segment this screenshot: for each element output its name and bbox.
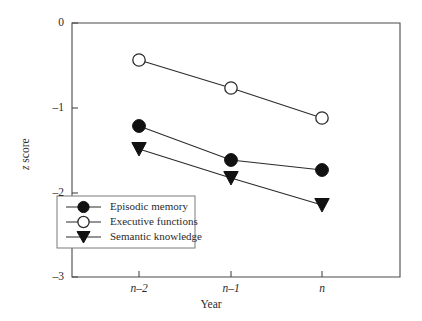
x-tick-marks — [139, 271, 322, 277]
data-point-filled-triangle — [315, 199, 329, 213]
data-point-open-circle — [225, 82, 237, 94]
y-tick-label-0: 0 — [40, 16, 64, 28]
y-axis-title: z score — [19, 138, 31, 170]
filled-circle-icon — [78, 201, 89, 212]
data-point-filled-circle — [225, 154, 238, 167]
data-point-open-circle — [316, 112, 328, 124]
data-point-filled-triangle — [224, 172, 238, 186]
data-point-filled-triangle — [132, 143, 146, 157]
data-point-open-circle — [133, 54, 145, 66]
legend-label-semantic-knowledge: Semantic knowledge — [110, 230, 202, 242]
open-circle-icon — [78, 216, 89, 227]
x-tick-label-n-minus-2: n–2 — [109, 282, 169, 294]
y-tick-label-minus2: –2 — [40, 186, 64, 198]
x-tick-label-n: n — [292, 282, 352, 294]
y-axis-title-symbol: z — [19, 166, 31, 170]
y-tick-label-minus1: –1 — [40, 101, 64, 113]
chart-figure: 0 –1 –2 –3 n–2 n–1 n z score Year Episod… — [0, 0, 422, 321]
data-point-filled-circle — [316, 164, 329, 177]
x-axis-title: Year — [0, 298, 422, 310]
y-axis-title-text: score — [19, 138, 31, 165]
data-point-filled-circle — [133, 120, 146, 133]
legend-label-episodic-memory: Episodic memory — [110, 200, 188, 212]
y-tick-label-minus3: –3 — [40, 270, 64, 282]
series-episodic-memory — [133, 120, 329, 177]
legend-label-executive-functions: Executive functions — [110, 215, 198, 227]
series-executive-functions — [133, 54, 328, 124]
x-tick-label-n-minus-1: n–1 — [201, 282, 261, 294]
